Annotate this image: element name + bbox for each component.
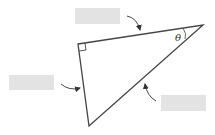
arrow-left-icon [61, 84, 80, 89]
arrow-top-icon [127, 16, 140, 30]
angle-arc [183, 28, 186, 39]
label-box-left[interactable] [9, 75, 54, 90]
arrow-right-icon [145, 84, 156, 101]
right-triangle-diagram: θ [0, 0, 215, 135]
label-box-top[interactable] [75, 8, 120, 24]
theta-label: θ [175, 32, 181, 43]
label-box-right[interactable] [161, 95, 206, 111]
